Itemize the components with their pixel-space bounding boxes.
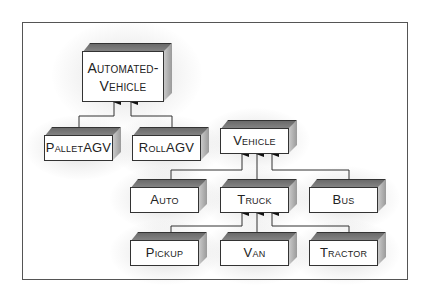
box-side-face	[163, 43, 172, 102]
node-label: RollAGV	[139, 140, 194, 156]
node-pickup: Pickup	[130, 232, 207, 266]
node-roll-agv: RollAGV	[132, 127, 209, 161]
node-label: Truck	[237, 192, 271, 208]
node-label: Bus	[333, 192, 355, 208]
node-label: Van	[244, 245, 266, 261]
node-truck: Truck	[220, 179, 297, 213]
node-label: Auto	[150, 192, 178, 208]
node-vehicle: Vehicle	[220, 120, 297, 154]
node-automated-vehicle: Automated- Vehicle	[82, 43, 172, 102]
node-label: Automated-	[87, 59, 158, 77]
node-label: Vehicle	[233, 133, 276, 149]
node-tractor: Tractor	[309, 232, 386, 266]
node-label: PalletAGV	[46, 140, 111, 156]
node-bus: Bus	[309, 179, 386, 213]
node-van: Van	[220, 232, 297, 266]
node-label: Tractor	[320, 245, 367, 261]
node-label: Pickup	[146, 245, 183, 261]
node-label: Vehicle	[100, 77, 147, 95]
node-auto: Auto	[130, 179, 207, 213]
node-pallet-agv: PalletAGV	[44, 127, 121, 161]
